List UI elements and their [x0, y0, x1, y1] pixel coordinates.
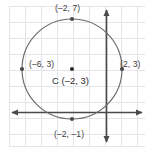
point-label-left: (–6, 3)	[29, 60, 54, 69]
point-label-right: (2, 3)	[120, 60, 140, 69]
point-label-top: (–2, 7)	[55, 4, 80, 13]
point-top	[70, 17, 74, 21]
point-label-bottom: (–2, –1)	[54, 130, 84, 139]
circle-coordinate-plane-figure: (–2, 7) (–6, 3) (2, 3) (–2, –1) C (–2, 3…	[0, 0, 154, 151]
point-left	[20, 67, 24, 71]
point-center	[70, 67, 74, 71]
circle-center-label: C (–2, 3)	[52, 76, 89, 86]
point-bottom	[70, 117, 74, 121]
